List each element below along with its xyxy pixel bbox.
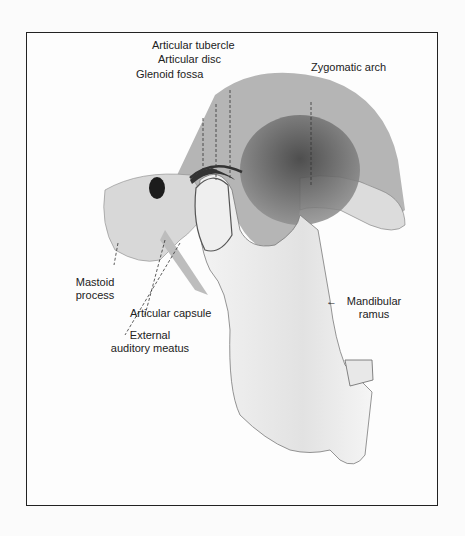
condyle bbox=[195, 178, 232, 251]
label-articular-tubercle: Articular tubercle bbox=[152, 39, 235, 52]
label-articular-disc: Articular disc bbox=[158, 53, 221, 66]
label-zygomatic-arch: Zygomatic arch bbox=[311, 61, 386, 74]
external-auditory-meatus bbox=[149, 177, 165, 199]
arrow-icon: ← bbox=[326, 295, 337, 308]
label-mandibular-ramus: Mandibular ramus bbox=[342, 295, 406, 321]
tmj-illustration bbox=[0, 0, 465, 536]
tooth-fragment bbox=[345, 360, 373, 386]
label-articular-capsule: Articular capsule bbox=[130, 307, 211, 320]
label-external-auditory-meatus: External auditory meatus bbox=[100, 329, 200, 355]
label-glenoid-fossa: Glenoid fossa bbox=[136, 68, 203, 81]
label-mastoid-process: Mastoid process bbox=[72, 276, 118, 302]
